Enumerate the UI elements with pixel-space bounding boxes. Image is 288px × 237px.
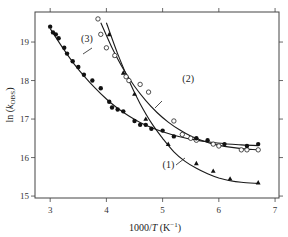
- filled-circle-marker: [121, 109, 125, 113]
- curve-label-3: (3): [81, 33, 93, 45]
- x-tick-label: 3: [48, 205, 53, 215]
- filled-circle-marker: [115, 107, 119, 111]
- triangle-marker: [228, 176, 233, 180]
- data-points: [48, 17, 261, 185]
- open-circle-marker: [104, 46, 108, 50]
- triangle-marker: [194, 161, 199, 165]
- open-circle-marker: [180, 132, 184, 136]
- x-tick-label: 7: [273, 205, 278, 215]
- chart: 345671516171819 (1)(2)(3) 1000/T (K−1) l…: [0, 0, 288, 237]
- x-tick-label: 6: [217, 205, 222, 215]
- filled-circle-marker: [70, 59, 74, 63]
- x-tick-label: 4: [104, 205, 109, 215]
- curve-label-2: (2): [182, 73, 194, 85]
- open-circle-marker: [138, 82, 142, 86]
- open-circle-marker: [189, 136, 193, 140]
- fit-curve-3: [50, 29, 258, 146]
- curve-label-1: (1): [163, 159, 175, 171]
- plot-border: [35, 12, 279, 198]
- filled-circle-marker: [245, 144, 249, 148]
- fit-curve-2: [101, 23, 258, 150]
- open-circle-marker: [211, 142, 215, 146]
- filled-circle-marker: [76, 65, 80, 69]
- curve-labels: (1)(2)(3): [81, 33, 194, 171]
- open-circle-marker: [239, 148, 243, 152]
- triangle-marker: [132, 91, 137, 95]
- open-circle-marker: [113, 53, 117, 57]
- x-axis-title: 1000/T (K−1): [129, 221, 181, 234]
- y-tick-label: 16: [20, 153, 30, 163]
- filled-circle-marker: [54, 32, 58, 36]
- filled-circle-marker: [107, 100, 111, 104]
- open-circle-marker: [146, 90, 150, 94]
- filled-circle-marker: [149, 126, 153, 130]
- filled-circle-marker: [138, 123, 142, 127]
- filled-circle-marker: [172, 134, 176, 138]
- leader-line-1: [176, 158, 185, 165]
- y-tick-label: 19: [20, 37, 30, 47]
- filled-circle-marker: [144, 123, 148, 127]
- leader-line-2: [155, 101, 162, 108]
- filled-circle-marker: [48, 24, 52, 28]
- open-circle-marker: [172, 119, 176, 123]
- filled-circle-marker: [65, 51, 69, 55]
- filled-circle-marker: [90, 78, 94, 82]
- y-tick-label: 18: [20, 76, 30, 86]
- triangle-marker: [211, 168, 216, 172]
- y-axis-title: ln (kOBS): [4, 87, 17, 122]
- filled-circle-marker: [62, 46, 66, 50]
- triangle-marker: [256, 180, 261, 184]
- open-circle-marker: [127, 78, 131, 82]
- filled-circle-marker: [222, 142, 226, 146]
- y-tick-label: 15: [20, 191, 30, 201]
- plot-frame: [35, 12, 279, 198]
- y-tick-label: 17: [20, 114, 30, 124]
- open-circle-marker: [256, 148, 260, 152]
- filled-circle-marker: [256, 142, 260, 146]
- open-circle-marker: [96, 17, 100, 21]
- filled-circle-marker: [194, 136, 198, 140]
- filled-circle-marker: [132, 119, 136, 123]
- x-tick-label: 5: [160, 205, 165, 215]
- filled-circle-marker: [160, 128, 164, 132]
- filled-circle-marker: [110, 105, 114, 109]
- filled-circle-marker: [99, 86, 103, 90]
- open-circle-marker: [245, 148, 249, 152]
- fit-curves: [50, 23, 258, 184]
- filled-circle-marker: [56, 36, 60, 40]
- fit-curve-1: [106, 23, 258, 184]
- open-circle-marker: [99, 32, 103, 36]
- filled-circle-marker: [82, 73, 86, 77]
- open-circle-marker: [217, 144, 221, 148]
- filled-circle-marker: [205, 138, 209, 142]
- open-circle-marker: [124, 74, 128, 78]
- leader-line-3: [83, 48, 92, 54]
